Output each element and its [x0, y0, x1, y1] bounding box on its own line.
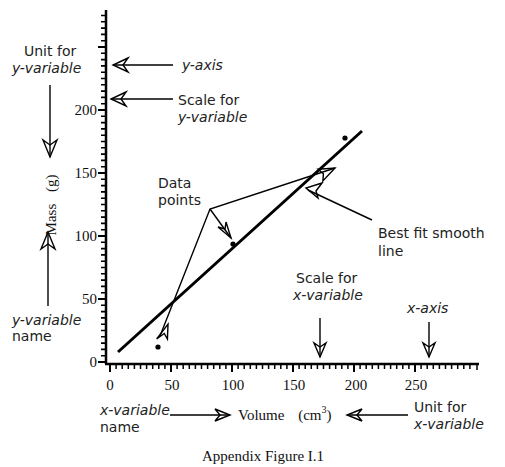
best-fit-label-line2: line — [378, 243, 403, 259]
y-var-name-label-line1: y-variable — [11, 312, 81, 328]
data-points — [155, 135, 347, 349]
x-axis-title: Volume (cm3) — [238, 404, 331, 424]
x-var-name-label-line1: x-variable — [99, 402, 170, 418]
unit-for-x-label-line2: x-variable — [413, 416, 484, 432]
data-point — [230, 241, 235, 246]
y-tick-200: 200 — [75, 102, 98, 118]
y-tick-100: 100 — [75, 228, 98, 244]
x-tick-200: 200 — [345, 377, 368, 393]
x-axis-label: x-axis — [406, 300, 448, 316]
y-tick-50: 50 — [82, 291, 97, 307]
data-point — [342, 135, 347, 140]
diagram-canvas: 0 50 100 150 200 0 50 100 150 200 250 — [0, 0, 505, 467]
scale-for-x-label-line2: x-variable — [292, 287, 363, 303]
unit-for-x-label-line1: Unit for — [414, 399, 466, 415]
scale-for-y-label-line1: Scale for — [178, 92, 240, 108]
y-axis-unit: (g) — [43, 175, 60, 193]
data-point — [155, 344, 160, 349]
y-var-name-label-line2: name — [12, 328, 52, 344]
y-axis-label: y-axis — [181, 57, 223, 73]
x-var-name-label-line2: name — [100, 419, 140, 435]
x-axis-unit: (cm — [298, 407, 322, 424]
y-tick-150: 150 — [75, 165, 98, 181]
x-axis-unit-close: ) — [326, 407, 331, 424]
y-tick-0: 0 — [90, 354, 98, 370]
best-fit-label-line1: Best fit smooth — [378, 225, 485, 241]
y-axis-title: Mass (g) — [43, 175, 60, 236]
x-tick-50: 50 — [165, 377, 180, 393]
x-axis-title-text: Volume — [238, 407, 285, 423]
best-fit-line — [118, 131, 362, 352]
y-axis-title-text: Mass — [43, 204, 59, 236]
x-axis: 0 50 100 150 200 250 — [105, 364, 479, 393]
unit-for-y-label-line2: y-variable — [11, 60, 81, 76]
data-points-label-line2: points — [158, 192, 201, 208]
x-tick-150: 150 — [283, 377, 306, 393]
scale-for-y-label-line2: y-variable — [177, 109, 247, 125]
x-tick-100: 100 — [222, 377, 245, 393]
unit-for-y-label-line1: Unit for — [24, 43, 76, 59]
data-points-label-line1: Data — [158, 175, 191, 191]
scale-for-x-label-line1: Scale for — [296, 270, 358, 286]
figure-caption: Appendix Figure I.1 — [202, 448, 324, 464]
x-tick-0: 0 — [106, 377, 114, 393]
x-tick-250: 250 — [405, 377, 428, 393]
